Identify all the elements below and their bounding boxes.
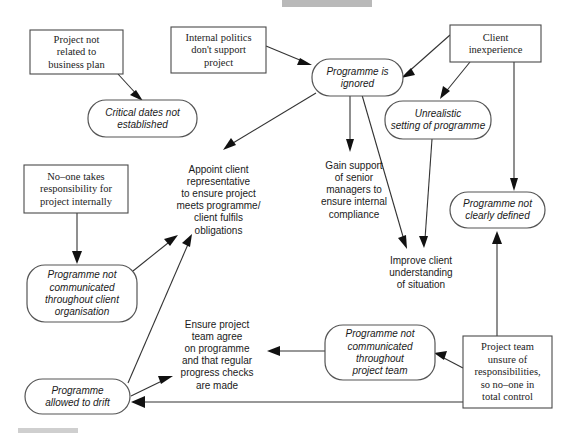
node-gain-support: Gain supportof seniormanagers toensure i… — [321, 160, 387, 220]
node-label-line: meets programme/ — [177, 200, 261, 211]
node-label-line: total control — [482, 391, 533, 402]
node-label-line: Ensure project — [185, 319, 250, 330]
node-label-line: unsure of — [488, 354, 528, 365]
node-label-line: to ensure project — [181, 188, 256, 199]
node-programme-not-clearly-defined: Programme notclearly defined — [450, 192, 545, 228]
node-programme-not-comm-client: Programme notcommunicatedthroughout clie… — [27, 265, 137, 322]
node-label-line: related to — [57, 46, 96, 57]
node-label-line: ignored — [341, 78, 375, 89]
node-label-line: and that regular — [182, 355, 253, 366]
node-programme-ignored: Programme isignored — [312, 59, 403, 96]
node-label-line: throughout client — [45, 294, 120, 305]
node-label-line: Gain support — [325, 160, 382, 171]
node-label-line: understanding — [389, 267, 452, 278]
node-label-line: Programme not — [463, 198, 533, 209]
node-ensure-project-team-agree: Ensure projectteam agreeon programmeand … — [181, 319, 254, 391]
node-label-line: of senior — [335, 172, 374, 183]
node-label-line: clearly defined — [465, 210, 530, 221]
node-label-line: Programme not — [48, 269, 118, 280]
node-appoint-client-rep: Appoint clientrepresentativeto ensure pr… — [177, 164, 261, 236]
node-label-line: responsibility for — [40, 183, 113, 194]
diagram-canvas: Project notrelated tobusiness planIntern… — [0, 0, 570, 433]
scan-artifact-top — [282, 0, 372, 7]
node-label-line: so no–one in — [481, 379, 535, 390]
node-programme-not-comm-team: Programme notcommunicatedthroughoutproje… — [325, 325, 435, 380]
node-improve-client-understanding: Improve clientunderstandingof situation — [389, 255, 452, 290]
node-label-line: compliance — [329, 209, 380, 220]
node-label-line: Programme is — [326, 66, 388, 77]
node-label-line: Internal politics — [185, 32, 251, 43]
node-label-line: No–one takes — [47, 171, 104, 182]
node-label-line: communicated — [49, 282, 114, 293]
node-label-line: Project not — [54, 34, 100, 45]
node-label-line: ensure internal — [321, 196, 387, 207]
node-no-one-responsibility: No–one takesresponsibility forproject in… — [24, 165, 128, 213]
node-label-line: allowed to drift — [45, 397, 111, 408]
node-critical-dates: Critical dates notestablished — [88, 100, 197, 137]
edge-layer — [72, 35, 518, 408]
node-label-line: Critical dates not — [105, 107, 181, 118]
node-label-line: project internally — [40, 196, 113, 207]
node-label-line: Improve client — [390, 255, 452, 266]
node-label-line: Unrealistic — [415, 108, 462, 119]
node-layer: Project notrelated tobusiness planIntern… — [24, 25, 552, 414]
node-label-line: business plan — [48, 59, 105, 70]
node-label-line: responsibilities, — [474, 366, 540, 377]
node-label-line: throughout — [356, 353, 405, 364]
node-label-line: don't support — [191, 44, 246, 55]
flow-diagram: Project notrelated tobusiness planIntern… — [0, 0, 570, 433]
node-unrealistic-setting: Unrealisticsetting of programme — [385, 101, 491, 139]
node-label-line: representative — [187, 176, 251, 187]
node-label-line: progress checks — [181, 367, 254, 378]
node-label-line: on programme — [184, 343, 249, 354]
node-label-line: Appoint client — [188, 164, 248, 175]
node-label-line: are made — [196, 380, 239, 391]
node-label-line: obligations — [195, 225, 243, 236]
node-client-inexperience: Clientinexperience — [450, 25, 541, 62]
node-label-line: Client — [483, 32, 509, 43]
node-project-team-unsure: Project teamunsure ofresponsibilities,so… — [463, 336, 552, 408]
node-programme-allowed-drift: Programmeallowed to drift — [25, 379, 130, 414]
node-label-line: of situation — [397, 279, 445, 290]
node-label-line: team agree — [192, 331, 243, 342]
node-internal-politics: Internal politicsdon't supportproject — [171, 27, 266, 73]
node-label-line: project team — [351, 365, 407, 376]
node-project-not-related: Project notrelated tobusiness plan — [30, 30, 123, 74]
node-label-line: client fulfils — [194, 212, 243, 223]
node-label-line: setting of programme — [391, 120, 486, 131]
node-label-line: communicated — [347, 341, 412, 352]
node-label-line: organisation — [55, 306, 110, 317]
node-label-line: Project team — [481, 341, 534, 352]
node-label-line: established — [117, 119, 168, 130]
scan-artifact-bottom — [18, 428, 78, 433]
node-label-line: inexperience — [469, 44, 523, 55]
node-label-line: Programme — [51, 385, 104, 396]
node-label-line: project — [204, 57, 233, 68]
node-label-line: Programme not — [346, 328, 416, 339]
node-label-line: managers to — [326, 184, 382, 195]
